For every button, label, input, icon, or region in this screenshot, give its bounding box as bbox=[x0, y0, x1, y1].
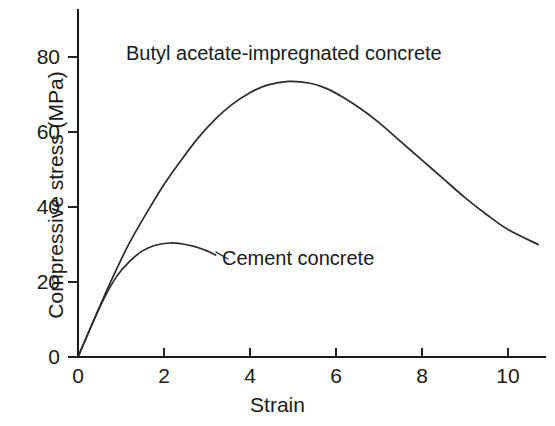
x-tick-marks bbox=[78, 348, 508, 357]
series-curve-cement-concrete bbox=[78, 243, 216, 357]
x-tick-label-4: 4 bbox=[244, 364, 256, 388]
x-tick-label-10: 10 bbox=[496, 364, 519, 388]
series-curve-butyl-acetate bbox=[78, 81, 538, 357]
x-tick-label-8: 8 bbox=[416, 364, 428, 388]
x-axis-title: Strain bbox=[0, 393, 555, 417]
x-tick-label-0: 0 bbox=[72, 364, 84, 388]
y-tick-marks bbox=[68, 57, 78, 357]
y-axis-title: Compressive stress (MPa) bbox=[44, 45, 68, 345]
x-tick-label-6: 6 bbox=[330, 364, 342, 388]
series-label-cement-concrete: Cement concrete bbox=[222, 247, 374, 270]
y-tick-label-0: 0 bbox=[10, 345, 60, 369]
series-label-butyl-acetate: Butyl acetate-impregnated concrete bbox=[126, 42, 442, 65]
x-tick-label-2: 2 bbox=[158, 364, 170, 388]
compressive-stress-strain-chart: 80 60 40 20 0 0 2 4 6 8 10 Compressive s… bbox=[0, 0, 555, 426]
